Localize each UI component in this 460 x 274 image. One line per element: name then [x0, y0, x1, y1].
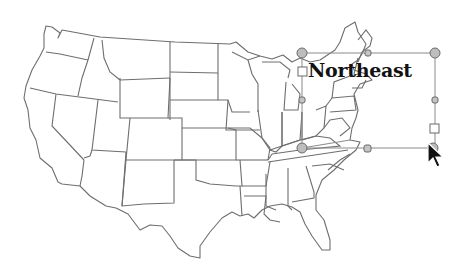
- handle-top-right[interactable]: [430, 48, 440, 58]
- handle-square-right[interactable]: [430, 124, 439, 133]
- handle-top-middle[interactable]: [365, 50, 371, 56]
- handle-middle-right[interactable]: [432, 97, 438, 103]
- handle-bottom-left[interactable]: [297, 143, 307, 153]
- slide-canvas[interactable]: Northeast: [0, 0, 460, 274]
- handle-square-left[interactable]: [298, 67, 307, 76]
- handle-middle-left[interactable]: [299, 97, 305, 103]
- us-map: [0, 0, 460, 274]
- handle-bottom-middle[interactable]: [364, 145, 371, 152]
- northeast-text-box[interactable]: Northeast: [308, 59, 412, 81]
- handle-top-left[interactable]: [297, 48, 307, 58]
